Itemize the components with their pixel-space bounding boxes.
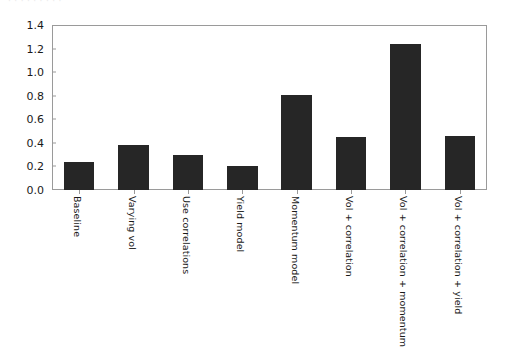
y-tick-mark (52, 95, 56, 96)
x-tick-label: Varying vol (127, 196, 138, 250)
x-tick-mark (188, 190, 189, 194)
x-tick-mark (351, 190, 352, 194)
x-tick-mark (134, 190, 135, 194)
x-tick-mark (242, 190, 243, 194)
y-tick-mark (52, 142, 56, 143)
y-tick-mark (52, 119, 56, 120)
x-tick-mark (460, 190, 461, 194)
x-tick-label: Vol + correlation + yield (453, 196, 464, 314)
y-tick-mark (52, 48, 56, 49)
x-tick-label: Yield model (235, 196, 246, 252)
y-tick-mark (52, 72, 56, 73)
x-tick-mark (405, 190, 406, 194)
y-tick-mark (52, 166, 56, 167)
x-tick-label: Use correlations (181, 196, 192, 274)
x-tick-label: Vol + correlation (344, 196, 355, 277)
x-tick-mark (297, 190, 298, 194)
x-tick-label: Vol + correlation + momentum (398, 196, 409, 347)
x-tick-label: Baseline (72, 196, 83, 237)
x-tick-mark (79, 190, 80, 194)
x-tick-label: Momentum model (290, 196, 301, 284)
